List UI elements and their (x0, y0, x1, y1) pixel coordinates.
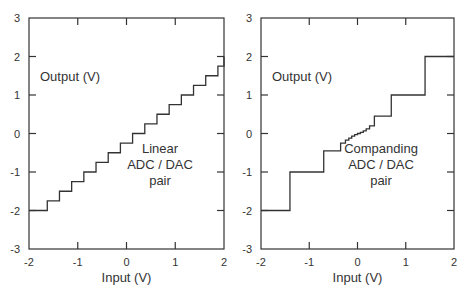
plot-frame (29, 18, 224, 249)
chart-panel-companding: -2-10123210-1-2-3Input (V)Output (V)Comp… (242, 12, 457, 285)
chart-panel-linear: -2-10123210-1-2-3Input (V)Output (V)Line… (10, 12, 227, 285)
plot-annotation: Linear (142, 141, 179, 156)
y-tick-label: 2 (246, 51, 252, 63)
x-tick-label: -2 (256, 256, 266, 268)
y-tick-label: 3 (246, 12, 252, 24)
y-tick-label: -2 (242, 205, 252, 217)
x-tick-label: -1 (73, 256, 83, 268)
y-tick-label: -2 (10, 205, 20, 217)
y-tick-label: 1 (246, 89, 252, 101)
plot-annotation: pair (370, 173, 392, 188)
y-tick-label: -1 (242, 166, 252, 178)
x-tick-label: 1 (172, 256, 178, 268)
plot-annotation: ADC / DAC (127, 157, 193, 172)
x-tick-label: 0 (354, 256, 360, 268)
y-tick-label: -3 (242, 243, 252, 255)
plot-annotation: Companding (344, 141, 418, 156)
x-tick-label: -2 (24, 256, 34, 268)
x-axis-title: Input (V) (333, 270, 383, 285)
y-tick-label: 2 (14, 51, 20, 63)
plot-annotation: pair (149, 173, 171, 188)
x-tick-label: 2 (221, 256, 227, 268)
chart-figure: -2-10123210-1-2-3Input (V)Output (V)Line… (0, 0, 467, 295)
y-tick-label: 1 (14, 89, 20, 101)
y-axis-title: Output (V) (40, 69, 100, 84)
x-tick-label: 0 (123, 256, 129, 268)
x-tick-label: -1 (304, 256, 314, 268)
y-tick-label: 0 (14, 128, 20, 140)
plot-annotation: ADC / DAC (348, 157, 414, 172)
y-tick-label: 3 (14, 12, 20, 24)
y-tick-label: -3 (10, 243, 20, 255)
y-axis-title: Output (V) (272, 69, 332, 84)
y-tick-label: -1 (10, 166, 20, 178)
y-tick-label: 0 (246, 128, 252, 140)
x-tick-label: 1 (403, 256, 409, 268)
x-tick-label: 2 (451, 256, 457, 268)
x-axis-title: Input (V) (102, 270, 152, 285)
